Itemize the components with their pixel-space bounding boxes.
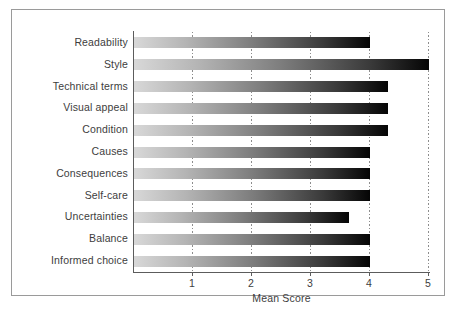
x-tick-mark-2	[251, 272, 252, 276]
bar-fill	[134, 212, 349, 223]
bar-uncertainties	[134, 212, 349, 223]
bar-fill	[134, 81, 388, 92]
x-tick-mark-1	[192, 272, 193, 276]
bar-fill	[134, 59, 429, 70]
x-tick-mark-5	[428, 272, 429, 276]
bar-consequences	[134, 168, 370, 179]
x-tick-mark-3	[310, 272, 311, 276]
bar-fill	[134, 103, 388, 114]
bar-fill	[134, 256, 370, 267]
x-tick-label-5: 5	[413, 277, 443, 289]
bar-condition	[134, 125, 388, 136]
bar-fill	[134, 147, 370, 158]
bar-fill	[134, 190, 370, 201]
y-tick-label-balance: Balance	[29, 232, 133, 244]
bar-visual-appeal	[134, 103, 388, 114]
y-tick-label-style: Style	[29, 58, 133, 70]
bar-fill	[134, 125, 388, 136]
x-tick-label-1: 1	[177, 277, 207, 289]
x-tick-mark-4	[369, 272, 370, 276]
bar-fill	[134, 234, 370, 245]
y-axis-tick-labels: ReadabilityStyleTechnical termsVisual ap…	[24, 32, 133, 272]
x-tick-label-2: 2	[236, 277, 266, 289]
bar-self-care	[134, 190, 370, 201]
bar-causes	[134, 147, 370, 158]
bar-readability	[134, 37, 370, 48]
y-tick-label-uncertainties: Uncertainties	[29, 210, 133, 222]
x-tick-label-4: 4	[354, 277, 384, 289]
y-tick-label-causes: Causes	[29, 145, 133, 157]
bar-fill	[134, 168, 370, 179]
bar-informed-choice	[134, 256, 370, 267]
figure-frame: 12345 ReadabilityStyleTechnical termsVis…	[11, 9, 445, 296]
y-tick-label-readability: Readability	[29, 36, 133, 48]
y-tick-label-consequences: Consequences	[29, 167, 133, 179]
y-tick-label-visual-appeal: Visual appeal	[29, 101, 133, 113]
bar-fill	[134, 37, 370, 48]
x-tick-label-3: 3	[295, 277, 325, 289]
x-axis-spine	[133, 272, 430, 273]
y-tick-label-self-care: Self-care	[29, 189, 133, 201]
x-axis-title: Mean Score	[133, 292, 430, 304]
figure-canvas: 12345 ReadabilityStyleTechnical termsVis…	[0, 0, 466, 311]
y-tick-label-technical-terms: Technical terms	[29, 80, 133, 92]
bar-technical-terms	[134, 81, 388, 92]
y-tick-label-condition: Condition	[29, 123, 133, 135]
y-tick-label-informed-choice: Informed choice	[29, 254, 133, 266]
bar-balance	[134, 234, 370, 245]
bar-style	[134, 59, 429, 70]
